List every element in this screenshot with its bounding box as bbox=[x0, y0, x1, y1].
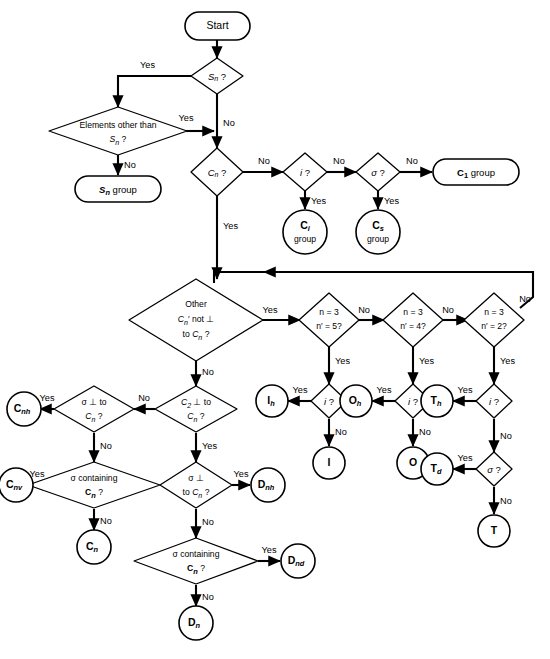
edge-label-sigma1-no: No bbox=[406, 156, 418, 166]
edge-label-n35-no: No bbox=[358, 305, 370, 315]
edge-label-othercn-yes: Yes bbox=[263, 305, 278, 315]
node-n35-line2: n′ = 5? bbox=[316, 321, 342, 331]
node-sigma-question-tetrahedral[interactable]: σ ? bbox=[476, 452, 512, 486]
edge-label-n32-no: No bbox=[519, 294, 531, 304]
edge-label-sigmaperpright-yes: Yes bbox=[234, 469, 249, 479]
edge-label-iqo-no: No bbox=[419, 427, 431, 437]
edge-label-n34-no: No bbox=[442, 305, 454, 315]
node-sn-group-label: Sn group bbox=[99, 184, 137, 197]
node-elements-other-line1: Elements other than bbox=[80, 120, 157, 130]
node-elements-other[interactable]: Elements other than Sn ? bbox=[49, 107, 187, 155]
node-sigma-perp-right-line2: to Cn ? bbox=[183, 487, 210, 498]
node-i-question-octahedral-label: i ? bbox=[408, 395, 418, 406]
edge-label-sigma1-yes: Yes bbox=[384, 196, 399, 206]
edge-label-n32-yes: Yes bbox=[500, 356, 515, 366]
node-cn-term[interactable]: Cn bbox=[77, 530, 111, 564]
node-c1-group-label: C1 group bbox=[457, 167, 495, 180]
edge-label-othercn-no: No bbox=[202, 367, 214, 377]
node-cnv-term[interactable]: Cnv bbox=[0, 468, 33, 502]
node-sigma-perp-right[interactable]: σ ⊥ to Cn ? bbox=[160, 462, 232, 508]
node-sigma-question-tetrahedral-label: σ ? bbox=[487, 463, 501, 474]
node-n34-line1: n = 3 bbox=[403, 307, 423, 317]
node-td-term[interactable]: Td bbox=[421, 453, 453, 485]
node-cn-question[interactable]: Cn ? bbox=[191, 148, 243, 196]
edge-label-iqt-yes: Yes bbox=[458, 385, 473, 395]
node-dnh-term[interactable]: Dnh bbox=[251, 468, 285, 502]
edge-label-sigmacontainleft-no: No bbox=[100, 516, 112, 526]
edge-label-iqi-no: No bbox=[335, 427, 347, 437]
edge-label-c2perp-yes: Yes bbox=[202, 441, 217, 451]
node-sn-group[interactable]: Sn group bbox=[75, 176, 161, 202]
edge-label-sigmaperpleft-no: No bbox=[100, 441, 112, 451]
edge-sn-yes bbox=[118, 76, 192, 107]
node-n34-line2: n′ = 4? bbox=[400, 321, 426, 331]
node-ih-term[interactable]: Ih bbox=[256, 385, 288, 417]
node-other-cn-line2: Cn′ not ⊥ bbox=[178, 314, 214, 325]
node-i-question-1-label: i ? bbox=[300, 166, 310, 177]
edge-label-sigmaperpright-no: No bbox=[202, 517, 214, 527]
edge-label-elements-no: No bbox=[124, 160, 136, 170]
node-sigma-question-1-label: σ ? bbox=[371, 166, 385, 177]
node-other-cn[interactable]: Other Cn′ not ⊥ to Cn ? bbox=[129, 279, 263, 361]
node-o-label: O bbox=[409, 456, 417, 468]
node-c2-perp-line1: C2 ⊥ to bbox=[181, 397, 211, 408]
node-cnh-term[interactable]: Cnh bbox=[7, 392, 41, 426]
node-oh-term[interactable]: Oh bbox=[340, 385, 372, 417]
node-i-question-tetrahedral-label: i ? bbox=[489, 395, 499, 406]
node-sigma-perp-left[interactable]: σ ⊥ to Cn ? bbox=[54, 386, 134, 432]
node-i-question-tetrahedral[interactable]: i ? bbox=[476, 384, 512, 418]
node-ci-group[interactable]: Ci group bbox=[283, 210, 327, 254]
edge-label-sigmat-no: No bbox=[500, 496, 512, 506]
node-i-label: I bbox=[328, 456, 331, 468]
edge-label-c2perp-no: No bbox=[138, 393, 150, 403]
edge-label-i1-yes: Yes bbox=[311, 196, 326, 206]
edge-label-sigmat-yes: Yes bbox=[458, 453, 473, 463]
edge-label-cn-no: No bbox=[258, 156, 270, 166]
edge-label-iqt-no: No bbox=[500, 431, 512, 441]
node-sigma-perp-left-line1: σ ⊥ to bbox=[81, 397, 106, 407]
edge-label-sigmacontainright-yes: Yes bbox=[262, 545, 277, 555]
node-sigma-contain-left-line1: σ containing bbox=[71, 473, 118, 483]
flowchart-canvas: Yes No Yes No No Yes Yes No Yes No Yes N… bbox=[0, 0, 550, 659]
node-n35-question[interactable]: n = 3 n′ = 5? bbox=[299, 293, 359, 347]
node-dn-term[interactable]: Dn bbox=[179, 606, 213, 640]
edge-label-cn-yes: Yes bbox=[223, 221, 238, 231]
node-c2-perp[interactable]: C2 ⊥ to Cn ? bbox=[155, 386, 237, 432]
node-sigma-perp-right-line1: σ ⊥ bbox=[188, 473, 204, 483]
node-cs-group[interactable]: Cs group bbox=[356, 210, 400, 254]
node-n32-question[interactable]: n = 3 n′ = 2? bbox=[464, 293, 524, 347]
node-other-cn-line3: to Cn ? bbox=[183, 329, 210, 340]
node-start-label: Start bbox=[206, 19, 228, 31]
edge-label-i1-no: No bbox=[333, 156, 345, 166]
node-n35-line1: n = 3 bbox=[319, 307, 339, 317]
edge-label-sn-no: No bbox=[223, 118, 235, 128]
edge-label-elements-yes: Yes bbox=[179, 113, 194, 123]
node-i-question-1[interactable]: i ? bbox=[283, 153, 327, 191]
node-i-term[interactable]: I bbox=[313, 447, 345, 479]
node-n32-line1: n = 3 bbox=[484, 307, 504, 317]
edge-label-n35-yes: Yes bbox=[335, 356, 350, 366]
node-n32-line2: n′ = 2? bbox=[481, 321, 507, 331]
node-n34-question[interactable]: n = 3 n′ = 4? bbox=[383, 293, 443, 347]
node-start[interactable]: Start bbox=[185, 12, 250, 40]
node-ci-group-sub: group bbox=[294, 234, 316, 244]
node-t-term[interactable]: T bbox=[478, 515, 510, 547]
node-th-term[interactable]: Th bbox=[421, 385, 453, 417]
node-sigma-contain-right-line1: σ containing bbox=[173, 549, 220, 559]
node-dnd-term[interactable]: Dnd bbox=[281, 544, 315, 578]
node-i-question-icosahedral-label: i ? bbox=[324, 395, 334, 406]
edge-label-n34-yes: Yes bbox=[419, 356, 434, 366]
node-c1-group[interactable]: C1 group bbox=[433, 159, 519, 185]
node-other-cn-line1: Other bbox=[185, 299, 207, 309]
node-sigma-contain-right[interactable]: σ containing Cn ? bbox=[134, 538, 258, 584]
node-t-label: T bbox=[491, 524, 498, 536]
node-sn-question[interactable]: Sn ? bbox=[191, 58, 243, 94]
edge-label-sn-yes: Yes bbox=[140, 60, 155, 70]
node-sigma-contain-left[interactable]: σ containing Cn ? bbox=[28, 462, 160, 508]
edge-label-iqi-yes: Yes bbox=[293, 385, 308, 395]
edge-label-sigmacontainright-no: No bbox=[202, 592, 214, 602]
edge-label-iqo-yes: Yes bbox=[377, 385, 392, 395]
node-sigma-question-1[interactable]: σ ? bbox=[356, 153, 400, 191]
node-cs-group-sub: group bbox=[367, 234, 389, 244]
edge-label-sigmaperpleft-yes: Yes bbox=[40, 393, 55, 403]
